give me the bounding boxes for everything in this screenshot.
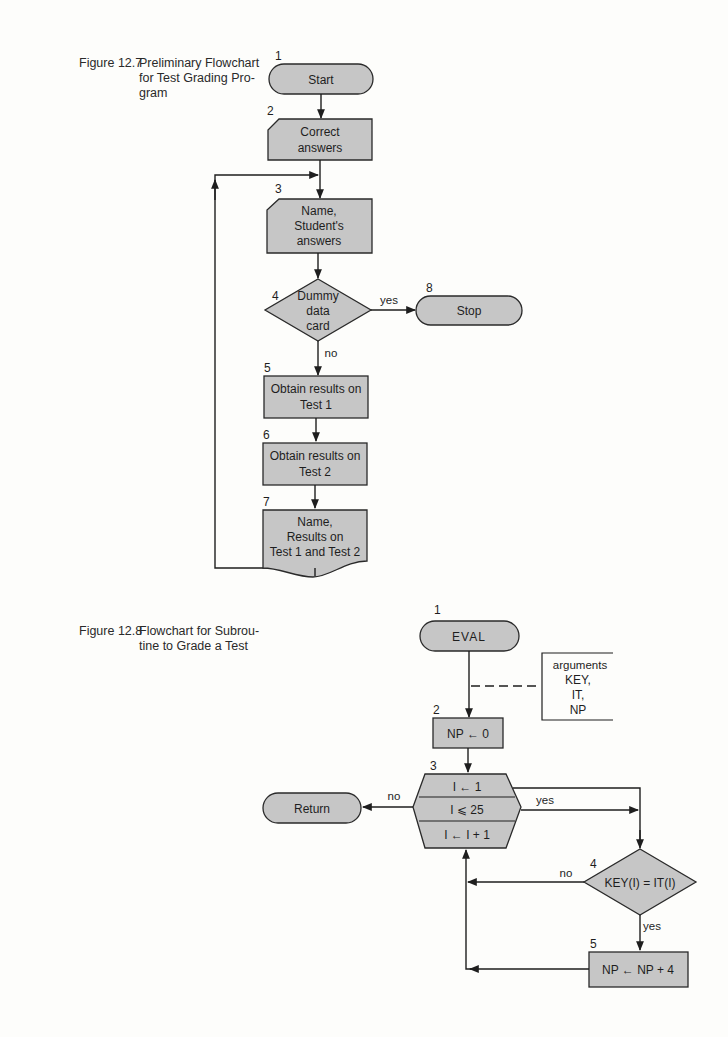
figure-12-8-diagram: 1 EVAL arguments KEY, IT, NP 2 NP ← 0 3 … [263, 603, 696, 987]
svg-text:4: 4 [272, 289, 279, 303]
edge-label-no: no [325, 347, 338, 359]
svg-text:8: 8 [426, 281, 433, 295]
node-test1: 5 Obtain results on Test 1 [264, 361, 368, 418]
svg-text:Student's: Student's [294, 219, 344, 233]
svg-text:Results on: Results on [287, 530, 344, 544]
svg-text:I ← 1: I ← 1 [453, 780, 482, 794]
node-stop: 8 Stop [416, 281, 522, 325]
svg-text:EVAL: EVAL [452, 630, 486, 644]
svg-text:answers: answers [298, 141, 343, 155]
node-test2: 6 Obtain results on Test 2 [263, 428, 367, 485]
svg-text:2: 2 [267, 104, 274, 118]
node-dummy-data-card: 4 Dummy data card [265, 279, 371, 341]
flowcharts: 1 Start 2 Correct answers 3 Name, Studen… [0, 0, 728, 1037]
svg-text:KEY(I) = IT(I): KEY(I) = IT(I) [604, 876, 675, 890]
svg-text:I ⩽ 25: I ⩽ 25 [450, 803, 484, 817]
svg-text:5: 5 [264, 361, 271, 375]
edge-label-yes: yes [536, 794, 554, 806]
svg-text:Obtain results on: Obtain results on [270, 449, 361, 463]
edge-label-no: no [560, 867, 573, 879]
edge-label-yes: yes [380, 294, 398, 306]
node-start: 1 Start [269, 49, 373, 94]
svg-text:data: data [306, 304, 330, 318]
node-np-increment: 5 NP ← NP + 4 [589, 937, 688, 987]
svg-text:Test 1: Test 1 [300, 398, 332, 412]
figure-12-7-diagram: 1 Start 2 Correct answers 3 Name, Studen… [215, 49, 522, 577]
svg-text:Name,: Name, [297, 515, 332, 529]
svg-text:arguments: arguments [553, 659, 608, 671]
svg-text:1: 1 [275, 49, 282, 63]
svg-text:NP: NP [570, 703, 587, 717]
svg-text:Return: Return [294, 802, 330, 816]
svg-text:NP ← 0: NP ← 0 [447, 727, 489, 741]
node-correct-answers: 2 Correct answers [267, 104, 372, 160]
svg-text:answers: answers [297, 234, 342, 248]
svg-text:Name,: Name, [301, 204, 336, 218]
svg-text:Test 2: Test 2 [299, 465, 331, 479]
svg-text:5: 5 [590, 937, 597, 951]
svg-text:I ← I + 1: I ← I + 1 [444, 828, 490, 842]
svg-text:Dummy: Dummy [297, 289, 338, 303]
svg-text:Stop: Stop [457, 304, 482, 318]
edge-label-yes: yes [643, 920, 661, 932]
svg-text:Obtain results on: Obtain results on [271, 382, 362, 396]
svg-text:7: 7 [263, 495, 270, 509]
svg-text:Test 1 and Test 2: Test 1 and Test 2 [270, 545, 361, 559]
svg-text:3: 3 [275, 182, 282, 196]
svg-text:4: 4 [590, 857, 597, 871]
svg-text:3: 3 [430, 759, 437, 773]
edge-label-no: no [388, 790, 401, 802]
annotation-arguments: arguments KEY, IT, NP [553, 659, 608, 717]
svg-text:6: 6 [263, 428, 270, 442]
svg-text:Correct: Correct [300, 125, 340, 139]
svg-text:2: 2 [433, 703, 440, 717]
node-loop: 3 I ← 1 I ⩽ 25 I ← I + 1 [413, 759, 521, 848]
svg-text:NP ← NP + 4: NP ← NP + 4 [602, 963, 674, 977]
svg-text:card: card [306, 319, 329, 333]
node-eval: 1 EVAL [420, 603, 519, 651]
svg-text:IT,: IT, [572, 688, 585, 702]
node-np-init: 2 NP ← 0 [433, 703, 503, 748]
svg-text:Start: Start [308, 73, 334, 87]
svg-text:KEY,: KEY, [565, 673, 591, 687]
svg-text:1: 1 [434, 603, 441, 617]
node-return: Return [263, 793, 361, 823]
node-key-compare: 4 KEY(I) = IT(I) [584, 849, 696, 915]
